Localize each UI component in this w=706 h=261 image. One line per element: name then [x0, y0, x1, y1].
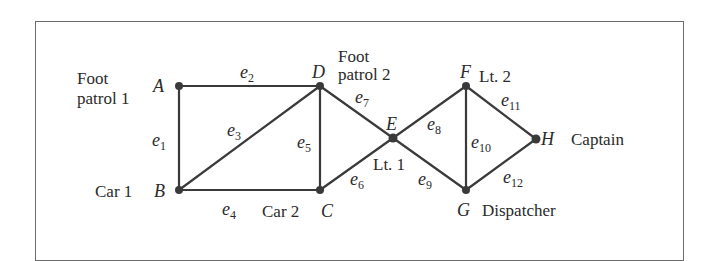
vertex-A — [175, 82, 183, 90]
vertex-label-E: E — [385, 114, 397, 134]
edge-label-e5: e5 — [297, 132, 311, 155]
role-label-E: Lt. 1 — [373, 155, 405, 174]
role-label-A-line2: patrol 1 — [77, 89, 129, 108]
vertex-F — [462, 82, 470, 90]
vertex-G — [462, 186, 470, 194]
role-label-C: Car 2 — [262, 202, 299, 221]
edge-label-e3: e3 — [227, 120, 241, 143]
edge-label-e9: e9 — [418, 169, 432, 192]
role-label-D-line2: patrol 2 — [338, 65, 390, 84]
vertex-C — [316, 186, 324, 194]
role-label-D-line1: Foot — [338, 47, 369, 66]
edge-label-e1: e1 — [152, 130, 166, 153]
vertex-D — [316, 82, 324, 90]
vertex-label-H: H — [540, 129, 555, 149]
vertex-E — [389, 134, 398, 143]
edge-label-e4: e4 — [222, 199, 236, 222]
edge-label-e8: e8 — [427, 114, 441, 137]
vertex-label-F: F — [459, 62, 472, 82]
vertex-label-G: G — [457, 200, 470, 220]
edge-label-e12: e12 — [503, 167, 523, 190]
edge-label-e11: e11 — [501, 90, 521, 113]
role-label-F: Lt. 2 — [479, 67, 511, 86]
vertex-label-D: D — [311, 62, 325, 82]
role-label-H: Captain — [571, 130, 624, 149]
role-label-A-line1: Foot — [77, 69, 108, 88]
edge-label-e7: e7 — [355, 87, 369, 110]
role-label-G: Dispatcher — [482, 201, 556, 220]
vertex-label-A: A — [152, 76, 165, 96]
vertex-label-C: C — [321, 201, 334, 221]
edge-label-e2: e2 — [240, 62, 254, 85]
edge-label-e10: e10 — [471, 132, 491, 155]
edge-label-e6: e6 — [350, 169, 364, 192]
vertex-H — [532, 135, 541, 144]
vertex-B — [175, 186, 183, 194]
role-label-B: Car 1 — [95, 182, 132, 201]
vertex-label-B: B — [154, 181, 165, 201]
